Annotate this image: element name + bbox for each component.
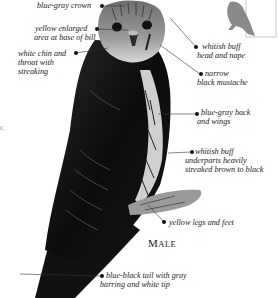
underparts-pointer-dot: [190, 150, 194, 154]
label-bill: yellow enlarged area at base of bill: [34, 24, 96, 42]
back-pointer-dot: [195, 112, 199, 116]
chin-pointer-dot: [74, 51, 78, 55]
bill-pointer-dot: [95, 27, 99, 31]
mustache-pointer-dot: [199, 72, 203, 76]
label-mustache: narrow black mustache: [205, 69, 248, 87]
legs-pointer-dot: [162, 220, 166, 224]
label-legs: yellow legs and feet: [169, 218, 234, 227]
head-pointer-dot: [194, 45, 198, 49]
label-underparts: whitish buff underparts heavily streaked…: [195, 147, 263, 174]
label-head: whitish buff head and nape: [201, 42, 245, 60]
label-crown: blue-gray crown: [37, 1, 91, 10]
figure-caption: MALE: [148, 237, 176, 249]
label-back: blue-gray back and wings: [201, 108, 250, 126]
crown-pointer-dot: [100, 4, 104, 8]
label-tail: blue-black tail with gray barring and wh…: [106, 271, 187, 289]
label-chin: white chin and throat with streaking: [18, 49, 66, 76]
tail-pointer-dot: [100, 274, 104, 278]
